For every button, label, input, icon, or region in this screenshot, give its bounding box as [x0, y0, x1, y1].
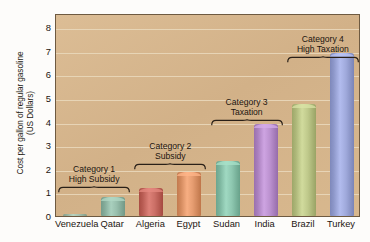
bar-india	[254, 124, 278, 216]
bar-top-cap	[101, 197, 125, 201]
category-label-4: Category 4High Taxation	[287, 34, 359, 55]
x-axis-label-india: India	[246, 219, 284, 229]
x-axis-label-egypt: Egypt	[169, 219, 207, 229]
category-brace-3	[211, 119, 283, 126]
category-brace-1	[58, 186, 130, 193]
y-axis-tick-label: 6	[39, 70, 51, 80]
y-axis-tick-label: 0	[39, 212, 51, 222]
category-label-line1: Category 2	[134, 141, 206, 151]
gridline	[56, 29, 359, 30]
bar-brazil	[292, 104, 316, 216]
category-label-line1: Category 1	[58, 164, 130, 174]
x-axis-label-algeria: Algeria	[131, 219, 169, 229]
x-axis-label-venezuela: Venezuela	[55, 219, 93, 229]
category-label-line2: Subsidy	[134, 151, 206, 161]
category-label-3: Category 3Taxation	[211, 97, 283, 118]
y-axis-tick-label: 2	[39, 165, 51, 175]
y-axis-tick-label: 7	[39, 47, 51, 57]
category-label-line1: Category 3	[211, 97, 283, 107]
category-label-1: Category 1High Subsidy	[58, 164, 130, 185]
x-axis-label-turkey: Turkey	[322, 219, 360, 229]
y-axis-tick-label: 4	[39, 118, 51, 128]
category-label-line2: High Taxation	[287, 44, 359, 54]
y-axis-tick-label: 1	[39, 188, 51, 198]
bar-top-cap	[292, 104, 316, 108]
bar-sudan	[216, 161, 240, 217]
gridline	[56, 76, 359, 77]
y-axis-tick-label: 8	[39, 23, 51, 33]
bar-top-cap	[139, 188, 163, 192]
category-label-2: Category 2Subsidy	[134, 141, 206, 162]
y-axis-tick-label: 3	[39, 141, 51, 151]
category-label-line1: Category 4	[287, 34, 359, 44]
bar-turkey	[330, 53, 354, 216]
gasoline-cost-bar-chart: Cost per gallon of regular gasoline (US …	[0, 0, 370, 242]
category-label-line2: Taxation	[211, 107, 283, 117]
category-brace-4	[287, 56, 359, 63]
bar-venezuela	[63, 214, 87, 216]
x-axis-tick-labels: VenezuelaQatarAlgeriaEgyptSudanIndiaBraz…	[55, 219, 360, 237]
bar-qatar	[101, 197, 125, 216]
gridline	[56, 100, 359, 101]
x-axis-label-sudan: Sudan	[208, 219, 246, 229]
bar-algeria	[139, 188, 163, 216]
bar-top-cap	[177, 172, 201, 176]
category-label-line2: High Subsidy	[58, 174, 130, 184]
category-brace-2	[134, 163, 206, 170]
y-axis-tick-label: 5	[39, 94, 51, 104]
x-axis-label-qatar: Qatar	[93, 219, 131, 229]
plot-area: Category 1High SubsidyCategory 2SubsidyC…	[55, 14, 360, 217]
x-axis-label-brazil: Brazil	[284, 219, 322, 229]
bar-egypt	[177, 172, 201, 216]
bar-top-cap	[216, 161, 240, 165]
